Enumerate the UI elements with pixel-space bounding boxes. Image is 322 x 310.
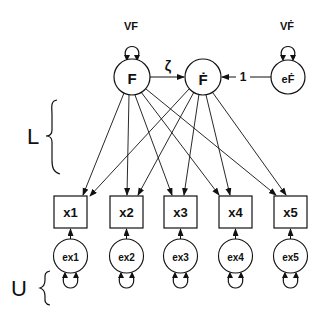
brace-label-U: U xyxy=(11,276,27,301)
error-paths xyxy=(71,229,291,239)
latent-node-F: VF F xyxy=(114,20,150,95)
observed-x4: x4 xyxy=(219,196,252,228)
node-label-ex1: ex1 xyxy=(62,252,79,263)
brace-L: L xyxy=(27,100,60,174)
node-label-eF: eḞ xyxy=(282,73,295,85)
variance-label-VFdot: VḞ xyxy=(280,20,294,32)
path-diagram: ζ 1 VF F Ḟ VḞ eḞ x1 x2 x3 x4 xyxy=(0,0,322,310)
observed-x1: x1 xyxy=(54,196,87,228)
curly-brace-icon xyxy=(46,100,60,174)
node-label-x4: x4 xyxy=(228,205,243,220)
node-label-x3: x3 xyxy=(173,205,187,220)
diagram-svg: ζ 1 VF F Ḟ VḞ eḞ x1 x2 x3 x4 xyxy=(0,0,322,310)
observed-x3: x3 xyxy=(164,196,197,228)
error-node-ex4: ex4 xyxy=(219,239,253,288)
node-label-x5: x5 xyxy=(283,205,297,220)
node-label-ex3: ex3 xyxy=(172,252,189,263)
node-label-ex5: ex5 xyxy=(282,252,299,263)
node-label-x1: x1 xyxy=(63,205,77,220)
loadings-from-F xyxy=(83,89,276,195)
latent-node-Fdot: Ḟ xyxy=(185,59,221,95)
latent-node-eF: VḞ eḞ xyxy=(271,20,305,94)
brace-label-L: L xyxy=(27,124,39,149)
error-node-ex2: ex2 xyxy=(110,239,144,288)
curly-brace-icon xyxy=(40,271,50,305)
node-label-Fdot: Ḟ xyxy=(198,71,207,88)
path-label-one: 1 xyxy=(240,70,247,84)
node-label-x2: x2 xyxy=(119,205,133,220)
node-label-ex4: ex4 xyxy=(227,252,244,263)
node-label-F: F xyxy=(127,70,136,87)
path-label-zeta: ζ xyxy=(165,58,172,74)
error-node-ex1: ex1 xyxy=(54,239,88,288)
error-node-ex3: ex3 xyxy=(164,239,198,288)
observed-x2: x2 xyxy=(110,196,143,228)
brace-U: U xyxy=(11,271,50,305)
error-node-ex5: ex5 xyxy=(274,239,308,288)
variance-label-VF: VF xyxy=(124,20,138,32)
observed-x5: x5 xyxy=(274,196,307,228)
node-label-ex2: ex2 xyxy=(118,252,135,263)
